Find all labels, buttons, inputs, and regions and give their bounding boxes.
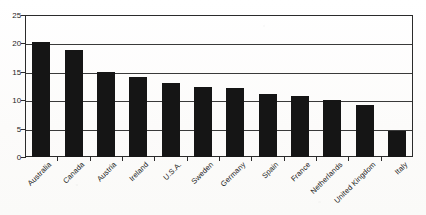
x-axis-tick-label: Sweden — [189, 160, 215, 186]
x-axis-tick-label: Germany — [219, 160, 248, 189]
bar — [97, 72, 115, 157]
y-axis-tick-label: 25 — [12, 11, 21, 20]
x-axis-tick-label: France — [289, 160, 312, 183]
x-axis-tick-label: Spain — [260, 160, 280, 180]
x-axis-tick-label: Austria — [95, 160, 118, 183]
bar — [259, 94, 277, 157]
bar — [356, 105, 374, 157]
bar — [162, 83, 180, 157]
bar — [291, 96, 309, 157]
bar — [388, 131, 406, 157]
x-axis-tick-label: Italy — [393, 160, 409, 176]
y-axis-tick-labels: 0510152025 — [0, 0, 21, 215]
x-axis-tick-label: Ireland — [127, 160, 150, 183]
x-axis-tick-label: Australia — [26, 160, 54, 188]
y-axis-line — [25, 15, 26, 158]
x-axis-tick-label: U.S.A. — [161, 160, 183, 182]
y-axis-tick-label: 20 — [12, 39, 21, 48]
x-axis-tick-labels: AustraliaCanadaAustriaIrelandU.S.A.Swede… — [25, 160, 425, 215]
bar — [226, 88, 244, 157]
bars-layer — [25, 15, 413, 157]
bar — [194, 87, 212, 157]
y-axis-tick-label: 10 — [12, 96, 21, 105]
y-axis-tick-label: 15 — [12, 67, 21, 76]
x-axis-tick-label: Canada — [60, 160, 85, 185]
bar — [32, 42, 50, 157]
bar — [323, 100, 341, 157]
bar — [129, 77, 147, 157]
bar-chart: 0510152025 AustraliaCanadaAustriaIreland… — [0, 0, 426, 215]
bar — [65, 50, 83, 157]
